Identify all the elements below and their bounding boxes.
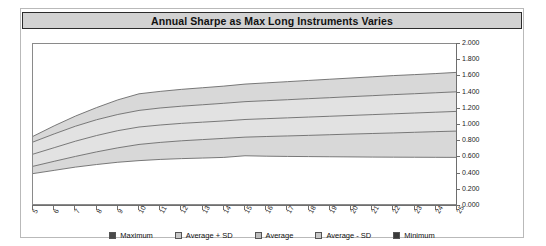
y-axis-tick (456, 43, 460, 44)
y-axis-tick (456, 92, 460, 93)
legend-item: Average (255, 231, 294, 240)
y-axis-tick-label: 1.800 (462, 55, 480, 63)
legend-item: Maximum (109, 231, 153, 240)
legend-item-label: Minimum (404, 231, 434, 240)
legend-swatch-icon (109, 232, 116, 239)
legend-item: Minimum (393, 231, 434, 240)
y-axis-tick-label: 2.000 (462, 39, 480, 47)
y-axis-tick-label: 0.200 (462, 185, 480, 193)
legend-swatch-icon (315, 232, 322, 239)
y-axis-tick-label: 1.600 (462, 71, 480, 79)
chart-screenshot: Annual Sharpe as Max Long Instruments Va… (0, 0, 546, 246)
legend-item-label: Average + SD (186, 231, 233, 240)
y-axis-tick (456, 75, 460, 76)
legend-item-label: Maximum (120, 231, 153, 240)
legend-swatch-icon (393, 232, 400, 239)
y-axis-tick-label: 1.200 (462, 104, 480, 112)
y-axis-tick-label: 1.400 (462, 88, 480, 96)
y-axis-tick (456, 140, 460, 141)
legend-swatch-icon (175, 232, 182, 239)
y-axis-tick (456, 173, 460, 174)
y-axis-tick-label: 1.000 (462, 120, 480, 128)
y-axis-tick-label: 0.400 (462, 169, 480, 177)
plot-area (32, 43, 456, 205)
plot-svg (33, 44, 457, 206)
y-axis-tick (456, 189, 460, 190)
legend-item: Average + SD (175, 231, 233, 240)
y-axis-tick-label: 0.800 (462, 136, 480, 144)
y-axis-tick (456, 124, 460, 125)
legend-swatch-icon (255, 232, 262, 239)
y-axis-tick (456, 59, 460, 60)
legend-item: Average - SD (315, 231, 371, 240)
legend-item-label: Average - SD (326, 231, 371, 240)
chart-title-bar: Annual Sharpe as Max Long Instruments Va… (22, 12, 522, 29)
page-title: Annual Sharpe as Max Long Instruments Va… (151, 15, 393, 27)
y-axis-tick (456, 108, 460, 109)
chart-legend: MaximumAverage + SDAverageAverage - SDMi… (22, 229, 522, 242)
y-axis-tick-label: 0.600 (462, 152, 480, 160)
y-axis-tick (456, 156, 460, 157)
legend-item-label: Average (266, 231, 294, 240)
